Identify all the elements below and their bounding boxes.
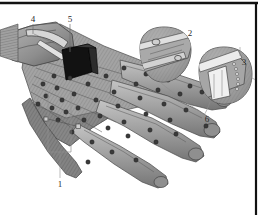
sensor-dot	[36, 102, 40, 106]
sensor-dot	[144, 112, 148, 116]
sensor-dot	[112, 90, 116, 94]
finger-little-tip	[154, 177, 168, 188]
ref-label-6: 6	[205, 114, 210, 124]
patent-figure: 1 2 3 4 5 6	[0, 0, 264, 217]
sensor-dot	[94, 98, 98, 102]
sensor-dot	[110, 150, 114, 154]
sensor-dot	[188, 84, 192, 88]
sensor-dot	[41, 82, 45, 86]
ref-label-3: 3	[242, 57, 247, 67]
ref-label-2: 2	[188, 28, 193, 38]
sensor-dot	[68, 76, 72, 80]
sensor-dot	[148, 128, 152, 132]
sensor-dot	[106, 126, 110, 130]
sensor-dot	[86, 160, 90, 164]
ref-label-1: 1	[58, 179, 63, 189]
sensor-dot	[122, 66, 126, 70]
inset2-eyelet	[175, 55, 182, 60]
ref-label-4: 4	[31, 14, 36, 24]
sensor-dot	[82, 118, 86, 122]
sensor-dot	[64, 110, 68, 114]
sensor-square	[76, 124, 81, 129]
inset2-eyelet	[152, 39, 160, 45]
sensor-dot	[50, 106, 54, 110]
sensor-dot	[134, 82, 138, 86]
ref-label-5: 5	[68, 14, 73, 24]
sensor-dot	[98, 114, 102, 118]
sensor-dot	[162, 102, 166, 106]
sensor-dot	[70, 130, 74, 134]
sensor-dot	[156, 88, 160, 92]
sensor-dot	[138, 96, 142, 100]
sensor-dot	[52, 74, 56, 78]
cuff-vertical-hatch	[0, 24, 18, 62]
sensor-dot	[184, 108, 188, 112]
finger-ring-tip	[189, 148, 204, 160]
sensor-dot	[116, 104, 120, 108]
figure-canvas: 1 2 3 4 5 6	[0, 0, 264, 217]
sensor-dot	[44, 94, 48, 98]
sensor-dot	[154, 140, 158, 144]
sensor-dot	[204, 124, 208, 128]
sensor-dot	[174, 132, 178, 136]
sensor-dot	[86, 82, 90, 86]
sensor-dot	[134, 158, 138, 162]
sensor-dot	[76, 106, 80, 110]
sensor-dot	[126, 134, 130, 138]
sensor-dot	[90, 140, 94, 144]
sensor-dot	[104, 74, 108, 78]
sensor-dot	[122, 120, 126, 124]
sensor-dot	[55, 86, 59, 90]
sensor-dot	[168, 118, 172, 122]
sensor-dot	[60, 98, 64, 102]
sensor-square	[44, 117, 48, 121]
sensor-dot	[72, 92, 76, 96]
sensor-dot	[178, 92, 182, 96]
